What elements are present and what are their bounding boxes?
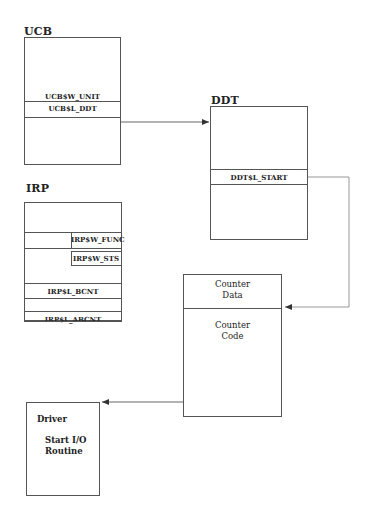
divider — [25, 248, 121, 249]
irp-field-func: IRP$W_FUNC — [71, 236, 121, 246]
divider — [25, 232, 121, 233]
divider — [25, 101, 120, 102]
ucb-field-ddt: UCB$L_DDT — [25, 105, 120, 115]
counter-code-label-1: Counter — [184, 320, 281, 331]
divider — [25, 298, 121, 299]
irp-field-bcnt: IRP$L_BCNT — [25, 288, 121, 298]
counter-data-label-2: Data — [184, 290, 281, 301]
divider — [25, 117, 120, 118]
divider — [184, 308, 281, 309]
ucb-structure: UCB$W_UNIT UCB$L_DDT — [24, 37, 121, 165]
divider — [211, 184, 307, 185]
ddt-structure: DDT$L_START — [210, 106, 308, 240]
counter-code-label-2: Code — [184, 331, 281, 342]
divider — [25, 283, 121, 284]
counter-data-label-1: Counter — [184, 279, 281, 290]
ddt-field-start: DDT$L_START — [211, 174, 307, 184]
irp-structure: IRP$W_FUNC IRP$W_STS IRP$L_BCNT IRP$L_AB… — [24, 202, 122, 321]
irp-field-sts: IRP$W_STS — [71, 255, 121, 265]
counter-structure: Counter Data Counter Code — [183, 274, 282, 417]
divider — [24, 321, 122, 322]
irp-title: IRP — [26, 182, 49, 195]
driver-routine-label-2: Routine — [45, 446, 83, 457]
driver-structure: Driver Start I/O Routine — [26, 402, 100, 496]
divider — [211, 169, 307, 170]
driver-title: Driver — [37, 414, 67, 425]
driver-routine-label-1: Start I/O — [45, 435, 86, 446]
divider — [25, 311, 121, 312]
